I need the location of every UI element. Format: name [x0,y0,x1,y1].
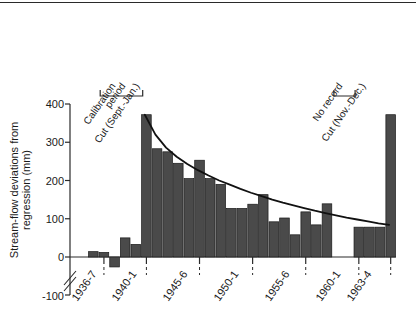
y-tick-200: 200 [46,175,64,187]
x-tick-1940-1: 1940-1 [109,268,138,303]
y-tick-300: 300 [46,136,64,148]
figure-root: Stream-flow deviations from regression (… [0,0,416,326]
y-tick-0: 0 [58,251,64,263]
x-tick-1963-4: 1963-4 [344,268,373,303]
x-tick-labels: 1936-7 1940-1 1945-6 1950-1 1955-6 1960-… [69,268,373,303]
y-tick-neg100: -100 [42,290,64,302]
x-tick-1950-1: 1950-1 [211,268,240,303]
y-tick-400: 400 [46,98,64,110]
y-tick-labels: 400 300 200 100 0 -100 [42,98,64,302]
x-tick-1955-6: 1955-6 [262,268,291,303]
chart-text-layer: Stream-flow deviations from regression (… [0,0,416,326]
x-tick-1945-6: 1945-6 [160,268,189,303]
y-tick-100: 100 [46,213,64,225]
x-tick-1936-7: 1936-7 [69,268,98,303]
x-tick-1960-1: 1960-1 [313,268,342,303]
y-axis-label-line1: Stream-flow deviations from [8,122,20,258]
y-axis-label-line2: regression (mm) [20,150,32,230]
y-axis-label: Stream-flow deviations from regression (… [8,122,32,258]
